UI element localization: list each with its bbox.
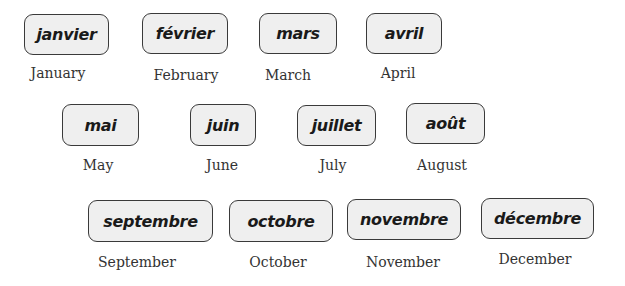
month-card-septembre[interactable]: septembre [88,200,213,242]
french-month-label: août [426,114,466,133]
french-month-label: décembre [494,209,581,228]
month-card-janvier[interactable]: janvier [24,14,109,55]
month-card-aout[interactable]: août [406,103,485,144]
month-card-juillet[interactable]: juillet [297,105,376,146]
french-month-label: janvier [36,25,96,44]
english-month-label: March [265,67,311,83]
month-card-avril[interactable]: avril [366,13,442,54]
month-card-mars[interactable]: mars [259,13,337,54]
month-card-mai[interactable]: mai [62,104,139,146]
french-month-label: juin [207,116,240,135]
english-month-label: July [319,157,346,173]
month-card-juin[interactable]: juin [190,104,256,146]
english-month-label: June [206,157,238,173]
french-month-label: avril [385,24,424,43]
french-month-label: juillet [312,116,362,135]
french-month-label: mars [276,24,320,43]
english-month-label: February [154,67,219,83]
english-month-label: November [366,254,440,270]
french-month-label: septembre [103,212,198,231]
english-month-label: October [249,254,306,270]
english-month-label: May [83,157,114,173]
month-card-fevrier[interactable]: février [142,13,228,54]
french-month-label: mai [84,116,116,135]
english-month-label: January [31,65,86,81]
month-card-octobre[interactable]: octobre [229,200,333,242]
month-card-novembre[interactable]: novembre [347,199,461,240]
french-month-label: octobre [247,212,314,231]
english-month-label: September [98,254,176,270]
english-month-label: August [417,157,467,173]
english-month-label: April [381,65,416,81]
french-month-label: février [156,24,214,43]
month-card-decembre[interactable]: décembre [481,198,594,239]
french-month-label: novembre [360,210,448,229]
english-month-label: December [499,251,572,267]
